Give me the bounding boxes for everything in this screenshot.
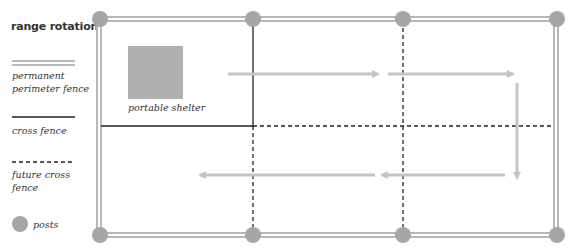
post-icon <box>549 11 565 27</box>
post-icon <box>92 227 108 243</box>
post-icon <box>549 227 565 243</box>
post-icon <box>395 11 411 27</box>
post-icon <box>245 227 261 243</box>
future-cross-fence <box>253 21 554 233</box>
portable-shelter <box>128 46 183 99</box>
post-icon <box>92 11 108 27</box>
pasture-diagram <box>0 0 573 251</box>
posts <box>92 11 565 243</box>
post-icon <box>245 11 261 27</box>
shelter-label: portable shelter <box>128 102 205 113</box>
post-icon <box>395 227 411 243</box>
